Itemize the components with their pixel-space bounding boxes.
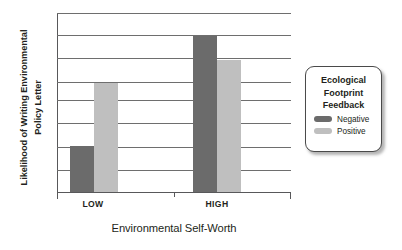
- gridline: [57, 35, 291, 36]
- bar-chart-figure: Likelihood of Writing Environmental Poli…: [0, 0, 402, 250]
- legend-item-negative: Negative: [306, 115, 381, 124]
- x-tick-label-low: LOW: [58, 199, 128, 209]
- gridline: [57, 13, 291, 14]
- bar-low-positive: [94, 83, 118, 192]
- legend-title-line-2: Footprint: [306, 87, 381, 100]
- legend-label-positive: Positive: [337, 127, 366, 136]
- gridline: [57, 82, 291, 83]
- legend-swatch-positive-icon: [314, 128, 332, 135]
- x-axis-right-cap: [290, 193, 291, 199]
- x-tick-label-high: HIGH: [182, 199, 252, 209]
- legend-title-line-1: Ecological: [306, 74, 381, 87]
- legend-title: Ecological Footprint Feedback: [306, 74, 381, 112]
- y-axis-title-line-1: Likelihood of Writing Environmental: [18, 15, 32, 201]
- legend-label-negative: Negative: [337, 115, 369, 124]
- plot-area: [57, 13, 291, 192]
- legend: Ecological Footprint Feedback Negative P…: [305, 66, 382, 152]
- bar-high-positive: [217, 60, 241, 193]
- bar-low-negative: [70, 146, 94, 192]
- x-axis-title: Environmental Self-Worth: [57, 222, 291, 234]
- gridline: [57, 100, 291, 101]
- gridline: [57, 58, 291, 59]
- y-axis-title: Likelihood of Writing Environmental Poli…: [18, 15, 45, 201]
- y-axis-title-line-2: Policy Letter: [31, 15, 45, 201]
- x-axis-center-tick: [174, 193, 175, 197]
- legend-title-line-3: Feedback: [306, 99, 381, 112]
- bar-high-negative: [193, 36, 217, 192]
- legend-swatch-negative-icon: [314, 116, 332, 123]
- gridline: [57, 123, 291, 124]
- legend-item-positive: Positive: [306, 127, 381, 136]
